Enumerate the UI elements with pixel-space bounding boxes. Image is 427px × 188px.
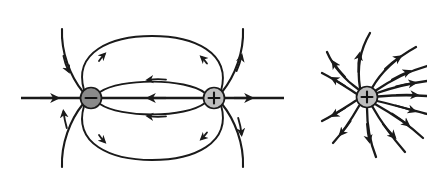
positive-charge bbox=[204, 88, 225, 109]
dipole-outer-loop-upper bbox=[82, 36, 223, 91]
positive-charge-isolated bbox=[357, 87, 378, 108]
dipole-outer-loop-lower bbox=[82, 105, 223, 160]
radial-line-lower-right-1 bbox=[377, 101, 427, 114]
radial-line-upper-right-1 bbox=[375, 66, 427, 91]
dipole-inner-arc-upper bbox=[100, 79, 205, 93]
electric-field-figure bbox=[0, 0, 427, 188]
dipole-escape-lower-left bbox=[62, 104, 83, 167]
radial-line-upper-right-steep bbox=[372, 47, 416, 88]
radial-line-upper-left-inner bbox=[358, 33, 370, 88]
radial-line-down bbox=[367, 108, 376, 157]
radial-line-right-horizontal bbox=[378, 95, 427, 97]
radial-line-upper-right-2 bbox=[377, 81, 427, 93]
dipole-escape-upper-left bbox=[62, 29, 83, 92]
field-line-canvas bbox=[0, 0, 427, 188]
dipole-inner-arc-lower bbox=[100, 103, 205, 117]
dipole-escape-lower-right bbox=[222, 104, 243, 167]
panel-electric-dipole bbox=[21, 29, 284, 167]
negative-charge bbox=[81, 88, 102, 109]
dipole-escape-upper-right bbox=[222, 29, 243, 92]
panel-isolated-positive-charge bbox=[322, 33, 427, 157]
